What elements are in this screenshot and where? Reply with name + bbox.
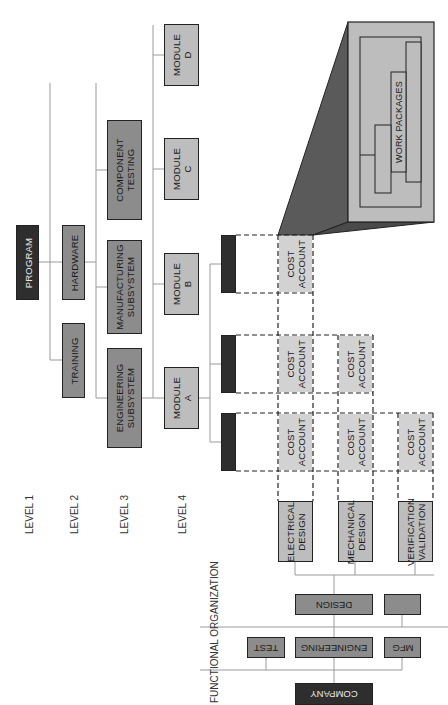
work-packages-label: WORK PACKAGES	[393, 81, 404, 163]
level-2-label: LEVEL 2	[69, 495, 80, 534]
component-testing-box: COMPONENT TESTING	[107, 120, 142, 220]
cost-account-label: COST ACCOUNT	[345, 340, 367, 388]
company-label: COMPANY	[310, 689, 357, 700]
cost-account-r2-c2: COST ACCOUNT	[339, 336, 372, 392]
test-box: TEST	[247, 637, 285, 658]
cost-account-r2-c1: COST ACCOUNT	[279, 336, 312, 392]
module-c-box: MODULE C	[164, 138, 199, 200]
engineering-label: ENGINEERING	[301, 642, 368, 653]
work-packages-box: WORK PACKAGES	[392, 73, 405, 171]
mfg-box: MFG	[384, 637, 421, 658]
engineering-subsystem-label: ENGINEERING SUBSYSTEM	[114, 364, 136, 433]
cost-account-r3-c3: COST ACCOUNT	[399, 414, 432, 470]
cost-account-label: COST ACCOUNT	[285, 418, 307, 466]
module-b-box: MODULE B	[164, 253, 199, 315]
functional-organization-label: FUNCTIONAL ORGANIZATION	[209, 561, 220, 703]
engineering-subsystem-box: ENGINEERING SUBSYSTEM	[107, 348, 142, 448]
program-label: PROGRAM	[22, 237, 33, 288]
verification-validation-box: VERIFICATION VALIDATION	[398, 501, 433, 562]
engineering-box: ENGINEERING	[295, 637, 373, 658]
cost-element-head-1	[221, 235, 236, 293]
verification-validation-label: VERIFICATION VALIDATION	[405, 497, 427, 565]
manufacturing-subsystem-label: MANUFACTURING SUBSYSTEM	[114, 244, 136, 329]
component-testing-label: COMPONENT TESTING	[114, 138, 136, 202]
module-c-label: MODULE C	[171, 148, 193, 190]
module-a-label: MODULE A	[171, 377, 193, 419]
cost-account-label: COST ACCOUNT	[285, 240, 307, 288]
module-b-label: MODULE B	[171, 263, 193, 305]
level-3-label: LEVEL 3	[119, 495, 130, 534]
manufacturing-subsystem-box: MANUFACTURING SUBSYSTEM	[107, 240, 142, 334]
cost-account-r3-c2: COST ACCOUNT	[339, 414, 372, 470]
level-4-label: LEVEL 4	[177, 495, 188, 534]
module-d-label: MODULE D	[171, 34, 193, 76]
electrical-design-label: ELECTRICAL DESIGN	[285, 501, 307, 562]
design-box: DESIGN	[295, 594, 373, 615]
blank-department-box	[384, 594, 421, 615]
cost-account-label: COST ACCOUNT	[405, 418, 427, 466]
module-a-box: MODULE A	[164, 367, 199, 429]
electrical-design-box: ELECTRICAL DESIGN	[278, 501, 313, 562]
training-label: TRAINING	[68, 337, 79, 384]
cost-account-label: COST ACCOUNT	[345, 418, 367, 466]
mfg-label: MFG	[392, 642, 413, 653]
cost-account-r1-c1: COST ACCOUNT	[279, 236, 312, 292]
training-box: TRAINING	[62, 323, 85, 398]
company-box: COMPANY	[295, 683, 373, 705]
cost-account-r3-c1: COST ACCOUNT	[279, 414, 312, 470]
hardware-box: HARDWARE	[62, 225, 85, 300]
level-1-label: LEVEL 1	[24, 495, 35, 534]
cost-element-head-3	[221, 413, 236, 471]
cost-element-head-2	[221, 335, 236, 393]
cost-account-label: COST ACCOUNT	[285, 340, 307, 388]
test-label: TEST	[254, 642, 278, 653]
mechanical-design-label: MECHANICAL DESIGN	[345, 499, 367, 563]
mechanical-design-box: MECHANICAL DESIGN	[338, 501, 373, 562]
module-d-box: MODULE D	[164, 24, 199, 86]
program-box: PROGRAM	[16, 225, 39, 300]
design-label: DESIGN	[316, 599, 352, 610]
hardware-label: HARDWARE	[68, 234, 79, 291]
